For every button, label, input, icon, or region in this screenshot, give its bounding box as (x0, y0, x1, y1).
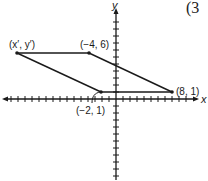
coordinate-diagram: x (0, 0, 208, 181)
y-axis-label: y (111, 0, 119, 11)
parallelogram (17, 53, 172, 92)
segment-left (17, 53, 101, 92)
vertex-p2 (170, 90, 174, 94)
label-point-neg2-1: (−2, 1) (76, 105, 105, 116)
diagram-canvas: x (0, 0, 208, 181)
label-point-8-1: (8, 1) (176, 86, 199, 97)
segment-right (89, 53, 172, 92)
leader-line (92, 92, 100, 103)
vertex-image (15, 51, 19, 55)
x-axis-label: x (200, 93, 207, 105)
vertex-p1 (87, 51, 91, 55)
vertices (15, 51, 174, 94)
problem-number: (3 (186, 0, 199, 17)
label-point-neg4-6: (−4, 6) (80, 39, 109, 50)
x-axis (2, 96, 199, 102)
y-axis (113, 8, 119, 180)
label-image-point: (x′, y′) (9, 39, 35, 50)
